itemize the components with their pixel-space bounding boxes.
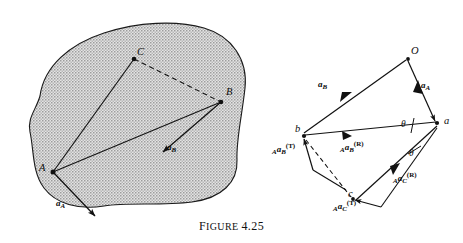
caption-initial: F	[199, 219, 206, 233]
figure-4-25: A B C aB aA O a b c aA aB AaB(R) AaB(T) …	[0, 0, 463, 243]
point-label-O: O	[411, 46, 419, 57]
poly-vector-O-b	[304, 60, 406, 133]
left-aB-sub: B	[172, 146, 177, 154]
poly-radialB-presub: A	[340, 146, 345, 154]
point-label-c: c	[348, 189, 353, 200]
poly-radialB-sup: (R)	[354, 140, 364, 148]
point-label-C: C	[137, 47, 144, 58]
poly-edge-b-lower	[313, 170, 346, 190]
left-aA-base: a	[56, 198, 61, 208]
poly-aB-base: a	[318, 79, 323, 89]
left-label-acceleration-A: aA	[56, 199, 65, 208]
poly-label-acceleration-A: aA	[421, 81, 430, 90]
poly-radialC-presub: A	[393, 177, 398, 185]
poly-label-tangential-B: AaB(T)	[272, 145, 295, 154]
angle-mark-upper	[411, 118, 414, 133]
poly-tangB-sup: (T)	[286, 142, 295, 150]
poly-tangB-presub: A	[272, 148, 277, 156]
angle-label-theta-lower: θ	[409, 149, 414, 159]
point-C-dot	[132, 57, 137, 62]
left-label-acceleration-B: aB	[167, 143, 176, 152]
point-label-B: B	[226, 87, 232, 98]
point-a-dot	[435, 121, 439, 125]
caption-smallcaps: IGURE	[206, 221, 239, 232]
angle-label-theta-upper: θ	[401, 120, 406, 130]
poly-vector-c-tangential	[355, 200, 381, 207]
poly-vector-a-c-radial	[356, 126, 437, 200]
poly-label-radial-C: AaC(R)	[393, 174, 417, 183]
figure-vector-graphics	[0, 0, 463, 243]
left-aB-base: a	[167, 142, 172, 152]
poly-vector-a-b-radial	[305, 122, 436, 135]
poly-edge-c-right	[381, 128, 437, 207]
point-label-b: b	[295, 124, 300, 135]
poly-label-tangential-C: AaC(T)	[333, 202, 356, 211]
poly-label-radial-B: AaB(R)	[340, 143, 364, 152]
poly-radialC-sup: (R)	[407, 171, 417, 179]
poly-aA-base: a	[421, 80, 426, 90]
point-label-a: a	[444, 116, 449, 127]
left-aA-sub: A	[61, 202, 66, 210]
point-O-dot	[406, 57, 410, 61]
poly-arrowhead-ab-mid	[342, 131, 352, 140]
figure-caption: FIGURE 4.25	[0, 219, 463, 234]
point-label-A: A	[39, 163, 45, 174]
caption-number: 4.25	[241, 219, 264, 233]
poly-label-acceleration-B: aB	[318, 80, 327, 89]
poly-aB-sub: B	[323, 83, 328, 91]
poly-aA-sub: A	[426, 84, 431, 92]
poly-tangC-presub: A	[333, 205, 338, 213]
point-b-dot	[302, 134, 306, 138]
poly-tangC-sup: (T)	[347, 199, 356, 207]
